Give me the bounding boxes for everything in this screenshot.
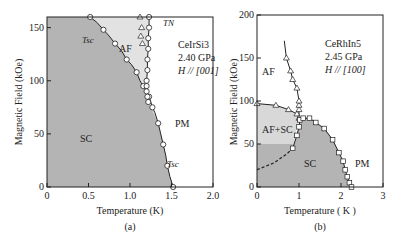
- svg-text:Tsc: Tsc: [82, 35, 94, 45]
- svg-text:Magnetic Field (kOe): Magnetic Field (kOe): [13, 59, 25, 146]
- svg-text:1.0: 1.0: [124, 190, 137, 201]
- phase-diagrams: 00.51.01.52.0050100150Temperature (K)(a)…: [0, 0, 393, 241]
- svg-text:Magnetic Field (kOe): Magnetic Field (kOe): [228, 59, 240, 146]
- svg-text:Temperature (K): Temperature (K): [97, 205, 164, 217]
- svg-text:CeRhIn5: CeRhIn5: [325, 38, 361, 49]
- svg-text:AF: AF: [119, 43, 132, 54]
- svg-text:100: 100: [29, 75, 44, 86]
- svg-text:PM: PM: [175, 118, 190, 129]
- svg-text:2.45 GPa: 2.45 GPa: [325, 51, 363, 62]
- svg-text:0: 0: [255, 190, 260, 201]
- svg-text:2.0: 2.0: [207, 190, 220, 201]
- svg-text:50: 50: [244, 138, 254, 149]
- svg-text:50: 50: [34, 128, 44, 139]
- svg-text:0: 0: [249, 181, 254, 192]
- svg-text:150: 150: [239, 52, 254, 63]
- svg-text:TN: TN: [163, 18, 175, 28]
- svg-text:200: 200: [239, 9, 254, 20]
- svg-text:0: 0: [45, 190, 50, 201]
- sc-region: [47, 17, 173, 187]
- svg-text:H // [001]: H // [001]: [177, 65, 219, 76]
- svg-text:AF+SC: AF+SC: [262, 124, 293, 135]
- svg-text:(b): (b): [314, 221, 326, 233]
- svg-text:CeIrSi3: CeIrSi3: [178, 39, 209, 50]
- svg-text:Tsc: Tsc: [167, 159, 179, 169]
- svg-text:2.40 GPa: 2.40 GPa: [178, 52, 216, 63]
- svg-text:100: 100: [239, 95, 254, 106]
- svg-text:H // [100]: H // [100]: [324, 64, 366, 75]
- svg-text:(a): (a): [124, 221, 135, 233]
- svg-text:AF: AF: [262, 66, 275, 77]
- svg-text:150: 150: [29, 22, 44, 33]
- svg-text:1: 1: [297, 190, 302, 201]
- svg-text:1.5: 1.5: [165, 190, 178, 201]
- svg-text:3: 3: [381, 190, 386, 201]
- svg-text:2: 2: [339, 190, 344, 201]
- svg-text:Temperature ( K ): Temperature ( K ): [284, 205, 356, 217]
- svg-text:0.5: 0.5: [82, 190, 95, 201]
- svg-text:0: 0: [39, 181, 44, 192]
- svg-text:SC: SC: [304, 158, 317, 169]
- svg-text:SC: SC: [80, 133, 93, 144]
- svg-text:PM: PM: [355, 158, 370, 169]
